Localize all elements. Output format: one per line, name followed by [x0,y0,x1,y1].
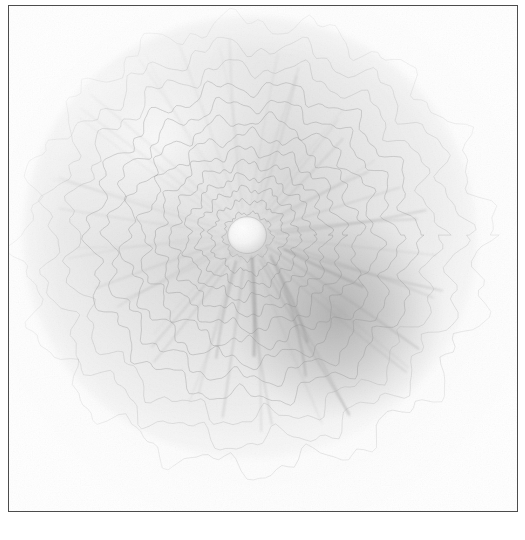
contour-map-canvas [9,6,517,511]
plate-vignette [9,6,517,511]
figure-root [0,0,525,540]
map-plate-frame [8,5,518,512]
